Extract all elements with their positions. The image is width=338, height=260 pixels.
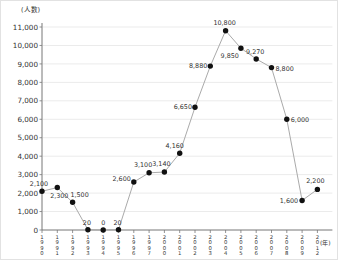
x-tick-label: 1997	[147, 234, 150, 256]
data-point	[208, 63, 213, 68]
data-point-label: 2,600	[113, 175, 131, 183]
data-point-label: 1,500	[70, 191, 88, 199]
x-tick-label: 2009	[300, 234, 304, 256]
data-point	[223, 28, 228, 33]
data-point	[39, 189, 44, 194]
x-tick-label: 1992	[71, 234, 74, 256]
y-tick-label: 2,000	[17, 189, 38, 198]
data-point-label: 9,270	[246, 48, 264, 56]
data-point-label: 4,160	[166, 142, 184, 150]
data-point	[55, 185, 60, 190]
data-point	[254, 56, 259, 61]
data-point	[299, 198, 304, 203]
x-tick-label: 2000	[163, 234, 167, 256]
data-point	[146, 170, 151, 175]
chart-canvas: 01,0002,0003,0004,0005,0006,0007,0008,00…	[1, 1, 337, 259]
x-tick-label: 1996	[132, 234, 136, 256]
y-tick-label: 6,000	[17, 115, 38, 124]
y-tick-label: 4,000	[17, 152, 38, 161]
data-point-label: 2,200	[306, 177, 324, 185]
data-point	[238, 46, 243, 51]
x-tick-label: 2004	[224, 234, 228, 256]
y-tick-label: 10,000	[13, 41, 39, 50]
data-point	[269, 65, 274, 70]
data-point-label: 1,600	[280, 197, 298, 205]
data-point-label: 20	[83, 219, 91, 227]
data-point-label: 3,140	[152, 160, 170, 168]
y-tick-label: 7,000	[17, 96, 38, 105]
x-tick-label: 2007	[270, 234, 274, 256]
data-point	[85, 227, 90, 232]
x-axis-title: (年)	[320, 238, 331, 247]
y-tick-label: 0	[33, 226, 38, 235]
data-point	[101, 227, 106, 232]
data-point-label: 8,880	[189, 62, 207, 70]
data-point	[177, 151, 182, 156]
x-tick-label: 2002	[193, 234, 197, 256]
data-point-label: 10,800	[213, 19, 235, 27]
y-tick-label: 1,000	[17, 207, 38, 216]
data-point	[284, 117, 289, 122]
data-point	[192, 105, 197, 110]
data-point-label: 6,000	[291, 116, 309, 124]
data-point	[70, 200, 75, 205]
y-tick-label: 3,000	[17, 170, 38, 179]
data-point-label: 20	[113, 219, 121, 227]
data-point-label: 8,800	[276, 65, 294, 73]
data-point-label: 2,300	[50, 192, 68, 200]
x-tick-label: 1993	[86, 234, 89, 256]
x-tick-label: 1994	[102, 234, 106, 256]
data-line	[42, 31, 317, 230]
data-point-label: 0	[101, 219, 105, 227]
y-tick-label: 9,000	[17, 60, 38, 69]
data-point	[315, 187, 320, 192]
x-tick-label: 2001	[178, 234, 182, 256]
y-tick-label: 5,000	[17, 133, 38, 142]
data-point-label: 9,850	[221, 52, 239, 60]
x-tick-label: 2008	[285, 234, 289, 256]
x-tick-label: 1990	[40, 234, 44, 256]
y-tick-label: 11,000	[13, 23, 39, 32]
data-point-label: 3,100	[134, 161, 152, 169]
x-tick-label: 1995	[117, 234, 120, 256]
data-point-label: 2,100	[30, 180, 48, 188]
x-tick-label: 1991	[56, 234, 59, 256]
data-point	[116, 227, 121, 232]
data-point-label: 6,650	[174, 103, 192, 111]
line-chart: (人数) 01,0002,0003,0004,0005,0006,0007,00…	[0, 0, 338, 260]
x-tick-label: 2005	[239, 234, 243, 256]
data-point	[162, 169, 167, 174]
x-tick-label: 2003	[209, 234, 213, 256]
x-tick-label: 2006	[255, 234, 259, 256]
y-tick-label: 8,000	[17, 78, 38, 87]
data-point	[131, 179, 136, 184]
